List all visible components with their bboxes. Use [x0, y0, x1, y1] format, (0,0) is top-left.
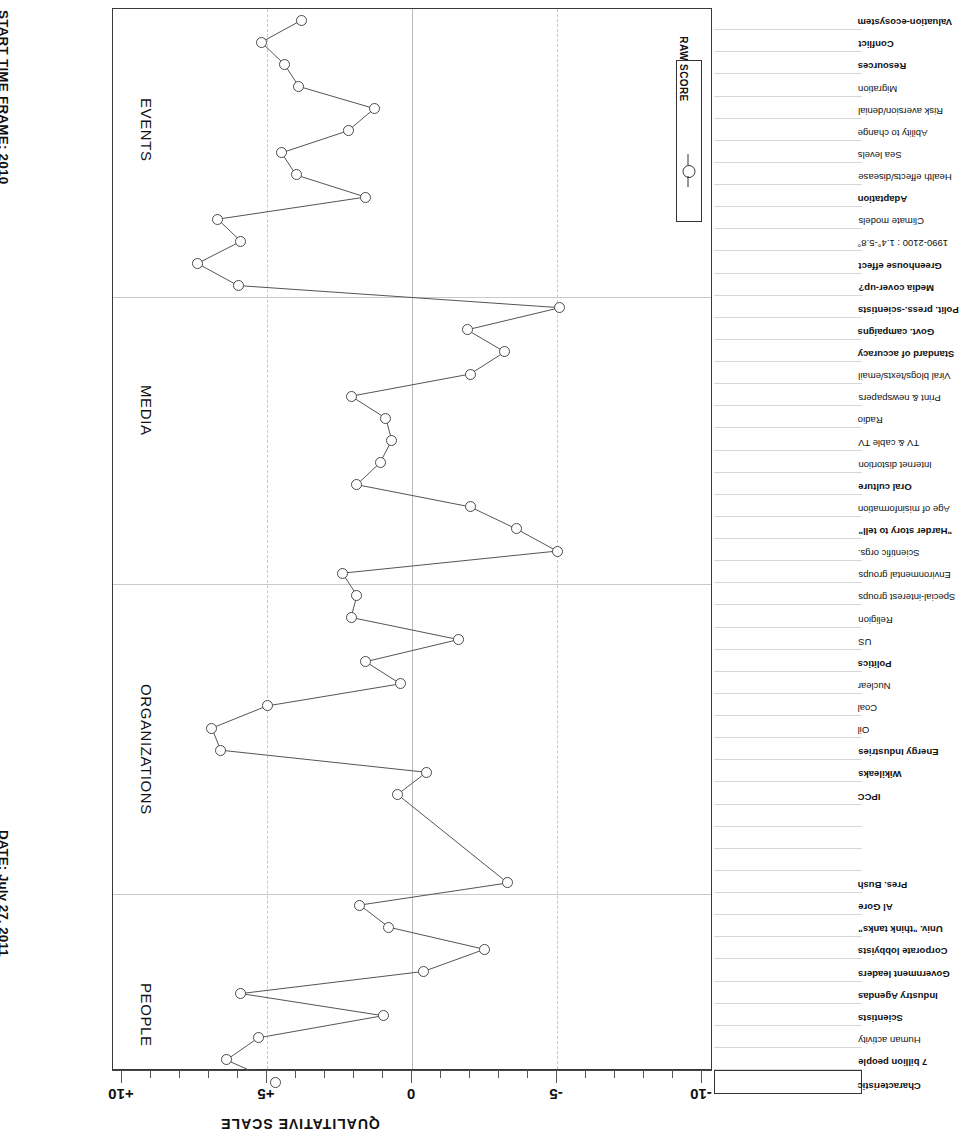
category-row: Internet distortion: [714, 451, 862, 473]
data-point-marker: [386, 435, 397, 446]
data-point-marker: [418, 966, 429, 977]
legend-label: RAW SCORE: [678, 36, 689, 101]
category-label: Adaptation: [858, 194, 908, 205]
category-row: Resources: [714, 52, 862, 74]
category-row: 1990-2100 : 1.4°-5.8°: [714, 229, 862, 251]
data-point-marker: [354, 900, 365, 911]
data-point-marker: [343, 125, 354, 136]
category-label: Polit. press.-scientists: [858, 305, 959, 316]
category-row: Scientists: [714, 1004, 862, 1026]
data-point-marker: [235, 236, 246, 247]
doc-date: DATE: July 27, 2011: [0, 830, 14, 981]
category-row: Media cover-up?: [714, 274, 862, 296]
category-row: Polit. press.-scientists: [714, 296, 862, 318]
category-row: Scientific orgs.: [714, 539, 862, 561]
category-row: Viral blogs/texts/email: [714, 362, 862, 384]
category-row: Oral culture: [714, 473, 862, 495]
data-point-marker: [206, 723, 217, 734]
axis-tick-label: +5: [257, 1086, 274, 1103]
category-row: Industry Agendas: [714, 982, 862, 1004]
data-point-marker: [378, 1010, 389, 1021]
data-point-marker: [375, 457, 386, 468]
legend-circle-icon: [683, 165, 696, 178]
category-label: Univ. "think tanks": [858, 924, 942, 935]
category-label: Oil: [858, 725, 870, 736]
data-point-marker: [421, 767, 432, 778]
category-row: Govt. campaigns: [714, 318, 862, 340]
axis-tick-label: -5: [549, 1086, 562, 1103]
category-label: "Harder story to tell": [858, 526, 951, 537]
category-row: Politics: [714, 650, 862, 672]
category-label: Age of misinformation: [858, 504, 950, 515]
data-point-marker: [262, 700, 273, 711]
axis-tick-label: 0: [407, 1086, 415, 1103]
data-point-marker: [465, 369, 476, 380]
data-point-marker: [453, 634, 464, 645]
category-row: [714, 827, 862, 849]
category-label: Special-interest groups: [858, 592, 955, 603]
axis-tick-label: -10: [690, 1086, 712, 1103]
data-point-marker: [462, 324, 473, 335]
category-row: Age of misinformation: [714, 495, 862, 517]
category-row: 7 billion people: [714, 1048, 862, 1070]
category-label: Health effects/disease: [858, 172, 951, 183]
category-label: Politics: [858, 659, 892, 670]
legend-symbol: [683, 165, 696, 178]
data-point-marker: [346, 612, 357, 623]
category-row: Pres. Bush: [714, 871, 862, 893]
category-label: Greenhouse effect: [858, 261, 941, 272]
data-point-marker: [337, 568, 348, 579]
category-row: Corporate lobbyists: [714, 937, 862, 959]
data-point-marker: [253, 1032, 264, 1043]
chart-plot-area: EVENTSMEDIAORGANIZATIONSPEOPLE: [112, 8, 712, 1070]
data-point-marker: [554, 302, 565, 313]
column-header-label: Characteristic: [857, 1081, 920, 1092]
axis-tick: [585, 1070, 586, 1078]
category-label: Conflict: [858, 39, 893, 50]
category-label: Sea levels: [858, 150, 902, 161]
data-point-marker: [279, 59, 290, 70]
axis-line: [112, 1070, 712, 1071]
column-header-cell: Characteristic: [714, 1070, 862, 1094]
category-row: Religion: [714, 605, 862, 627]
series-marker-layer: [113, 9, 713, 1071]
value-axis: [112, 1070, 712, 1084]
data-point-marker: [276, 147, 287, 158]
category-label: Government leaders: [858, 969, 950, 980]
category-label: Pres. Bush: [858, 880, 908, 891]
category-label: Ability to change: [858, 128, 928, 139]
category-label: Wikileaks: [858, 769, 901, 780]
category-label: Climate models: [858, 216, 923, 227]
category-label: Energy Industries: [858, 747, 938, 758]
category-label: Risk aversion/denial: [858, 106, 943, 117]
category-label: Industry Agendas: [858, 991, 938, 1002]
category-label: Valuation-ecosystem: [858, 17, 953, 28]
category-label: Al Gore: [858, 902, 892, 913]
data-point-marker: [360, 656, 371, 667]
data-point-marker: [351, 479, 362, 490]
category-row: Univ. "think tanks": [714, 915, 862, 937]
axis-tick: [614, 1070, 615, 1078]
category-label: Nuclear: [858, 681, 891, 692]
data-point-marker: [233, 280, 244, 291]
category-label: Internet distortion: [858, 460, 931, 471]
category-label: Environmental groups: [858, 570, 950, 581]
category-row: Climate models: [714, 207, 862, 229]
data-point-marker: [212, 214, 223, 225]
category-row: Wikileaks: [714, 760, 862, 782]
axis-tick: [353, 1070, 354, 1078]
axis-tick: [672, 1070, 673, 1078]
data-point-marker: [296, 15, 307, 26]
category-row: Ability to change: [714, 119, 862, 141]
axis-tick: [150, 1070, 151, 1078]
category-row: Human activity: [714, 1026, 862, 1048]
data-point-marker: [291, 169, 302, 180]
category-label: Radio: [858, 415, 883, 426]
document-meta: DATE: July 27, 2011 REVISED: Jan. 10, 20…: [0, 830, 14, 981]
axis-tick: [295, 1070, 296, 1078]
category-label: Human activity: [858, 1035, 920, 1046]
data-point-marker: [192, 258, 203, 269]
category-label: Media cover-up?: [858, 283, 934, 294]
data-point-marker: [395, 678, 406, 689]
category-label: 1990-2100 : 1.4°-5.8°: [858, 238, 949, 249]
